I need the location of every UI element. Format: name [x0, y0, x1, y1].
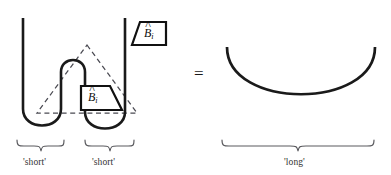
string-diagram-figure: ^Bi ^Bi = 'short' 'short' 'long' — [0, 0, 391, 175]
equals-sign: = — [194, 65, 204, 82]
outer-box-hat-accent: ^ — [144, 18, 151, 33]
brace-short-left-label: 'short' — [23, 158, 46, 168]
wire-path-left — [23, 18, 125, 129]
inner-operator-box-label: ^Bi — [88, 90, 98, 105]
long-arc-wire — [227, 47, 375, 94]
brace-long-label: 'long' — [284, 158, 305, 168]
brace-long — [222, 140, 374, 151]
brace-short-right-label: 'short' — [92, 158, 115, 168]
inner-box-hat-accent: ^ — [88, 82, 95, 97]
inner-box-subscript: i — [95, 96, 97, 105]
figure-canvas — [0, 0, 391, 175]
brace-short-left — [17, 140, 64, 151]
brace-short-right — [85, 140, 134, 151]
outer-box-subscript: i — [151, 32, 153, 41]
outer-operator-box-label: ^Bi — [144, 26, 154, 41]
